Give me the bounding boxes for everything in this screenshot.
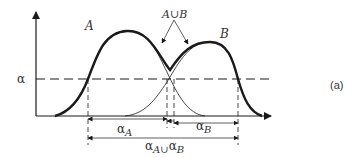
curve-a-label: A [84, 19, 94, 33]
alpha-union-label: αA∪αB [145, 139, 184, 155]
alpha-axis-label: α [17, 72, 25, 86]
fuzzy-union-diagram: α A B A∪B αA αB αA∪αB (a) [0, 0, 358, 158]
union-label: A∪B [161, 8, 187, 21]
curve-b-label: B [219, 27, 229, 41]
union-envelope [55, 31, 262, 116]
panel-label: (a) [330, 79, 343, 91]
union-pointer-left [162, 20, 174, 43]
union-pointer-right [174, 20, 188, 44]
alpha-a-label: αA [117, 122, 132, 138]
curve-a-thin [55, 31, 205, 116]
alpha-b-label: αB [196, 119, 211, 135]
